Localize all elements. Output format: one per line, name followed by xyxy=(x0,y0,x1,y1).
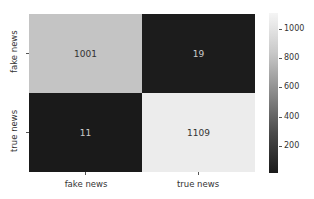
cell-value: 19 xyxy=(193,49,204,59)
cell-value: 1109 xyxy=(187,128,210,138)
x-tick xyxy=(85,172,86,175)
colorbar-tick xyxy=(279,29,282,30)
x-label-true-news: true news xyxy=(174,179,222,189)
colorbar-label: 400 xyxy=(284,112,299,121)
colorbar-tick xyxy=(279,58,282,59)
cell-value: 11 xyxy=(80,128,91,138)
confusion-matrix-heatmap: 1001 19 11 1109 xyxy=(29,14,255,172)
cell-true-true: 1109 xyxy=(142,93,255,172)
y-tick xyxy=(26,132,29,133)
colorbar-label: 200 xyxy=(284,141,299,150)
x-tick xyxy=(198,172,199,175)
y-label-true-news: true news xyxy=(9,112,19,152)
colorbar-tick xyxy=(279,87,282,88)
x-label-fake-news: fake news xyxy=(62,179,110,189)
cell-fake-fake: 1001 xyxy=(29,14,142,93)
colorbar xyxy=(269,13,278,173)
cell-value: 1001 xyxy=(74,49,97,59)
colorbar-tick xyxy=(279,146,282,147)
y-tick xyxy=(26,53,29,54)
colorbar-tick xyxy=(279,117,282,118)
colorbar-label: 1000 xyxy=(284,24,304,33)
colorbar-label: 800 xyxy=(284,53,299,62)
colorbar-label: 600 xyxy=(284,82,299,91)
y-label-fake-news: fake news xyxy=(9,33,19,73)
cell-fake-true: 19 xyxy=(142,14,255,93)
cell-true-fake: 11 xyxy=(29,93,142,172)
